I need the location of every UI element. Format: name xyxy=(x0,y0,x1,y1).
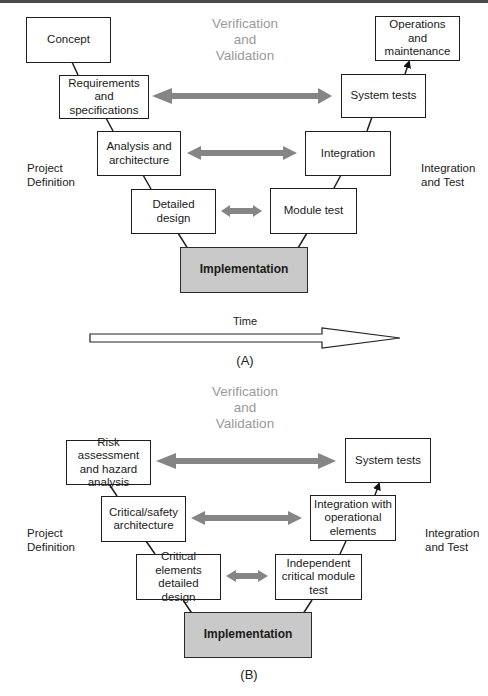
vv-line: Verification xyxy=(195,384,295,400)
label-line: Integration xyxy=(421,162,475,176)
box-label: Module test xyxy=(284,204,343,218)
integration-test-label-b: Integration and Test xyxy=(425,527,479,554)
top-border-line xyxy=(0,0,488,3)
box-label: Integration with operational elements xyxy=(314,498,392,539)
box-detailed-design: Detailed design xyxy=(131,189,216,234)
time-arrow xyxy=(90,328,400,348)
label-line: Definition xyxy=(27,176,75,190)
time-label: Time xyxy=(215,315,275,327)
box-independent-critical-module-test: Independent critical module test xyxy=(275,554,362,600)
vv-line: Verification xyxy=(195,16,295,32)
box-integration-operational: Integration with operational elements xyxy=(310,495,396,541)
box-integration: Integration xyxy=(305,131,391,176)
box-module-test: Module test xyxy=(270,188,357,234)
box-label: Integration xyxy=(321,147,375,161)
integration-test-label-a: Integration and Test xyxy=(421,162,475,189)
vv-title-b: Verification and Validation xyxy=(195,384,295,432)
box-analysis: Analysis and architecture xyxy=(97,131,181,176)
project-definition-label-a: Project Definition xyxy=(27,162,75,189)
label-line: and Test xyxy=(421,176,475,190)
diagram-a-caption: (A) xyxy=(215,353,275,368)
box-implementation-b: Implementation xyxy=(184,612,312,658)
box-requirements: Requirements and specifications xyxy=(59,75,149,119)
box-label: Implementation xyxy=(204,628,293,642)
box-implementation-a: Implementation xyxy=(180,247,308,293)
box-operations: Operations and maintenance xyxy=(375,16,460,61)
project-definition-label-b: Project Definition xyxy=(27,527,75,554)
diagram-b-caption: (B) xyxy=(219,667,279,682)
box-critical-elements-detailed-design: Critical elements detailed design xyxy=(136,554,221,600)
box-label: Requirements and specifications xyxy=(63,77,145,118)
label-line: Project xyxy=(27,527,75,541)
label-line: Definition xyxy=(27,541,75,555)
box-critical-safety-architecture: Critical/safety architecture xyxy=(101,496,186,542)
vv-line: Validation xyxy=(195,48,295,64)
box-label: Operations and maintenance xyxy=(379,18,456,59)
box-label: Critical/safety architecture xyxy=(105,506,182,533)
box-label: Implementation xyxy=(200,263,289,277)
box-label: Risk assessment and hazard analysis xyxy=(70,436,147,490)
label-line: Project xyxy=(27,162,75,176)
vv-line: and xyxy=(195,400,295,416)
vv-title-a: Verification and Validation xyxy=(195,16,295,64)
vv-line: and xyxy=(195,32,295,48)
box-system-tests-a: System tests xyxy=(341,74,426,118)
box-risk-assessment: Risk assessment and hazard analysis xyxy=(66,440,151,485)
box-label: Analysis and architecture xyxy=(101,140,177,167)
box-concept: Concept xyxy=(26,17,111,63)
box-label: Concept xyxy=(47,33,90,47)
label-line: and Test xyxy=(425,541,479,555)
vv-line: Validation xyxy=(195,416,295,432)
box-system-tests-b: System tests xyxy=(345,438,431,483)
box-label: System tests xyxy=(351,89,417,103)
box-label: Detailed design xyxy=(135,198,212,225)
label-line: Integration xyxy=(425,527,479,541)
box-label: Independent critical module test xyxy=(279,557,358,598)
box-label: Critical elements detailed design xyxy=(140,550,217,604)
box-label: System tests xyxy=(355,454,421,468)
